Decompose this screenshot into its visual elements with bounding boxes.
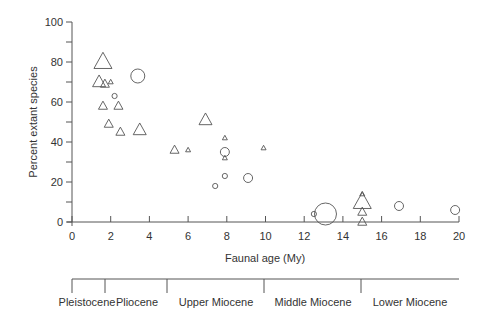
x-tick-label: 2 <box>108 230 114 242</box>
x-axis-label: Faunal age (My) <box>225 252 305 264</box>
triangle-marker <box>104 119 113 127</box>
axes: 02040608010002468101214161820 <box>45 16 465 242</box>
epoch-label: Pleistocene <box>59 296 116 308</box>
triangle-marker <box>261 145 266 150</box>
triangle-marker <box>116 127 125 135</box>
y-tick-label: 20 <box>51 176 63 188</box>
circle-marker <box>244 174 253 183</box>
epoch-label: Middle Miocene <box>274 296 351 308</box>
circle-marker <box>395 202 404 211</box>
triangle-marker <box>170 145 179 153</box>
triangle-marker <box>108 79 113 84</box>
circle-marker <box>131 69 145 83</box>
x-tick-label: 16 <box>375 230 387 242</box>
y-axis-label: Percent extant species <box>27 66 39 178</box>
circle-marker <box>222 173 227 178</box>
scatter-chart: 02040608010002468101214161820 Pleistocen… <box>0 0 486 330</box>
x-tick-label: 12 <box>298 230 310 242</box>
triangle-marker <box>199 113 212 125</box>
circle-marker <box>112 93 117 98</box>
x-tick-label: 4 <box>146 230 152 242</box>
triangle-marker <box>186 147 191 152</box>
circle-marker <box>311 211 316 216</box>
circle-marker <box>213 183 218 188</box>
triangle-marker <box>222 135 227 140</box>
x-tick-label: 20 <box>453 230 465 242</box>
data-points <box>93 52 460 225</box>
y-tick-label: 0 <box>57 216 63 228</box>
x-tick-label: 18 <box>414 230 426 242</box>
x-tick-label: 0 <box>69 230 75 242</box>
x-tick-label: 8 <box>224 230 230 242</box>
triangle-marker <box>94 52 112 68</box>
x-tick-label: 6 <box>185 230 191 242</box>
epoch-label: Upper Miocene <box>179 296 254 308</box>
y-tick-label: 40 <box>51 136 63 148</box>
epoch-label: Pliocene <box>116 296 158 308</box>
y-tick-label: 80 <box>51 56 63 68</box>
triangle-marker <box>98 101 107 109</box>
triangle-marker <box>358 217 367 225</box>
x-tick-label: 10 <box>259 230 271 242</box>
geologic-timescale: PleistocenePlioceneUpper MioceneMiddle M… <box>59 279 459 308</box>
circle-marker <box>451 206 460 215</box>
y-tick-label: 60 <box>51 96 63 108</box>
triangle-marker <box>114 101 123 109</box>
x-tick-label: 14 <box>337 230 349 242</box>
triangle-marker <box>133 123 146 135</box>
y-tick-label: 100 <box>45 16 63 28</box>
epoch-label: Lower Miocene <box>373 296 448 308</box>
triangle-marker <box>353 192 371 208</box>
